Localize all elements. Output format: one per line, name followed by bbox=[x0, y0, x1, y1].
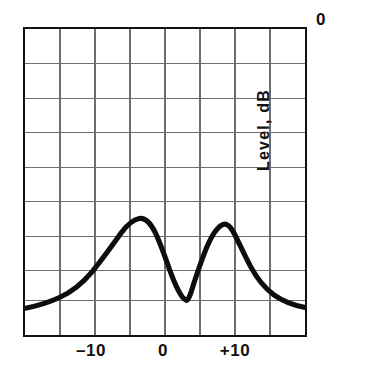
y-axis-top-label: 0 bbox=[316, 10, 325, 30]
x-tick-label-plus10: +10 bbox=[220, 341, 250, 361]
curve-series-response bbox=[25, 218, 305, 308]
x-tick-label-minus10: –10 bbox=[76, 341, 106, 361]
y-axis-title: Level, dB bbox=[255, 55, 273, 205]
x-tick-label-zero: 0 bbox=[158, 341, 168, 361]
chart-figure: 0 Level, dB –10 0 +10 bbox=[0, 0, 377, 375]
